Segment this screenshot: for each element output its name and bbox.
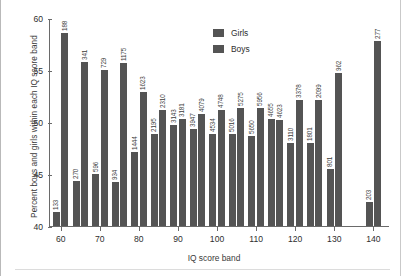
bar-value-label: 341 <box>81 49 88 59</box>
x-tick-label: 90 <box>164 234 192 244</box>
bar-girls-130 <box>327 169 334 226</box>
chart-figure: Percent boys and girls within each IQ sc… <box>0 0 401 276</box>
bar-value-label: 3110 <box>287 128 294 141</box>
bar-girls-90 <box>170 125 177 226</box>
bar-value-label: 1175 <box>120 48 127 61</box>
bar-value-label: 3378 <box>295 85 302 99</box>
bar-value-label: 1623 <box>139 76 146 90</box>
bar-boys-75 <box>120 63 127 226</box>
x-tick-label: 130 <box>320 234 348 244</box>
y-tick-label: 40 <box>23 222 43 232</box>
legend-item-girls: Girls <box>213 28 250 38</box>
bar-value-label: 270 <box>72 169 79 179</box>
bar-value-label: 1444 <box>131 137 138 151</box>
bar-value-label: 4623 <box>276 104 283 118</box>
bar-value-label: 5016 <box>228 119 235 133</box>
x-tick-label: 100 <box>203 234 231 244</box>
bar-value-label: 277 <box>374 29 381 39</box>
bar-girls-85 <box>151 134 158 226</box>
bar-girls-100 <box>209 134 216 226</box>
x-tick-label: 110 <box>242 234 270 244</box>
bar-value-label: 1801 <box>306 127 313 141</box>
y-tick-mark <box>48 227 52 228</box>
y-tick-label: 45 <box>23 170 43 180</box>
bar-boys-115 <box>276 120 283 226</box>
bar-girls-95 <box>190 129 197 226</box>
bar-value-label: 2099 <box>315 85 322 99</box>
chart-legend: Girls Boys <box>213 28 250 60</box>
y-tick-label: 50 <box>23 118 43 128</box>
bar-boys-140 <box>374 41 381 226</box>
x-tick-mark <box>295 227 296 231</box>
legend-item-boys: Boys <box>213 44 250 54</box>
y-tick-mark <box>48 123 52 124</box>
x-tick-label: 120 <box>281 234 309 244</box>
legend-label-girls: Girls <box>231 28 248 38</box>
bar-girls-105 <box>229 134 236 226</box>
bar-value-label: 4748 <box>217 94 224 108</box>
y-tick-mark <box>48 19 52 20</box>
bar-value-label: 2310 <box>159 94 166 108</box>
bar-girls-60 <box>53 212 60 226</box>
x-tick-mark <box>100 227 101 231</box>
bar-value-label: 4079 <box>198 98 205 112</box>
y-tick-label: 55 <box>23 66 43 76</box>
bar-value-label: 4655 <box>267 103 274 117</box>
legend-swatch-girls <box>213 29 224 37</box>
bar-girls-115 <box>268 119 275 226</box>
x-tick-label: 70 <box>86 234 114 244</box>
bar-boys-120 <box>296 100 303 226</box>
bar-value-label: 2195 <box>150 119 157 133</box>
bar-girls-110 <box>248 136 255 226</box>
bar-boys-70 <box>101 70 108 226</box>
bar-girls-75 <box>112 182 119 226</box>
bar-boys-105 <box>237 108 244 226</box>
bar-value-label: 3143 <box>170 110 177 124</box>
x-tick-mark <box>217 227 218 231</box>
bar-girls-80 <box>131 152 138 226</box>
bar-value-label: 4534 <box>209 119 216 133</box>
bar-value-label: 934 <box>111 170 118 180</box>
x-tick-mark <box>373 227 374 231</box>
footer-divider <box>15 269 390 270</box>
bar-value-label: 729 <box>100 58 107 68</box>
bar-value-label: 133 <box>52 200 59 210</box>
bar-value-label: 3181 <box>178 103 185 117</box>
bar-boys-80 <box>140 92 147 226</box>
bar-value-label: 203 <box>365 190 372 200</box>
bar-value-label: 596 <box>92 162 99 172</box>
legend-swatch-boys <box>213 45 224 53</box>
bar-value-label: 962 <box>335 61 342 71</box>
bar-boys-85 <box>159 110 166 226</box>
x-tick-label: 60 <box>47 234 75 244</box>
bar-boys-100 <box>218 110 225 226</box>
bar-girls-125 <box>307 143 314 226</box>
x-tick-mark <box>256 227 257 231</box>
x-tick-mark <box>61 227 62 231</box>
bar-boys-90 <box>179 119 186 226</box>
x-tick-label: 80 <box>125 234 153 244</box>
bar-girls-70 <box>92 174 99 226</box>
bar-value-label: 5650 <box>248 120 255 134</box>
bar-girls-65 <box>73 181 80 226</box>
bar-value-label: 3947 <box>189 114 196 128</box>
bar-boys-60 <box>61 33 68 226</box>
bar-girls-120 <box>287 143 294 226</box>
y-tick-label: 60 <box>23 14 43 24</box>
bar-value-label: 5956 <box>256 93 263 107</box>
bar-boys-125 <box>315 100 322 226</box>
y-tick-mark <box>48 71 52 72</box>
bar-boys-110 <box>257 108 264 226</box>
legend-label-boys: Boys <box>231 44 250 54</box>
x-tick-label: 140 <box>359 234 387 244</box>
bar-value-label: 801 <box>326 157 333 167</box>
x-tick-mark <box>334 227 335 231</box>
y-tick-mark <box>48 175 52 176</box>
bar-boys-95 <box>198 114 205 226</box>
bar-value-label: 188 <box>61 20 68 30</box>
bar-girls-140 <box>366 202 373 226</box>
x-tick-mark <box>178 227 179 231</box>
x-axis-label: IQ score band <box>49 253 379 263</box>
bar-value-label: 5275 <box>237 93 244 107</box>
bar-boys-130 <box>335 73 342 226</box>
